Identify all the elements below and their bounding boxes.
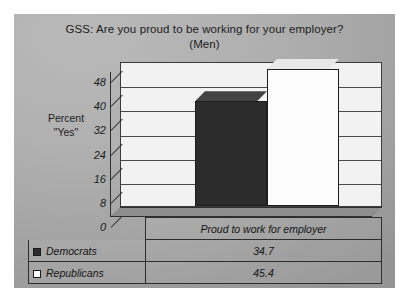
legend-swatch-democrats-icon bbox=[33, 248, 41, 256]
legend-data-table: Proud to work for employer Democrats 34.… bbox=[28, 217, 382, 284]
tick-connector-40 bbox=[111, 95, 122, 106]
tick-connector-24 bbox=[111, 144, 122, 155]
table-header-key-cell bbox=[29, 218, 146, 240]
legend-item-republicans[interactable]: Republicans bbox=[29, 262, 146, 284]
y-tick-label-32: 32 bbox=[94, 124, 106, 136]
chart-panel: GSS: Are you proud to be working for you… bbox=[14, 14, 395, 288]
value-democrats: 34.7 bbox=[146, 240, 382, 262]
legend-label-republicans: Republicans bbox=[46, 267, 104, 279]
bar-democrats bbox=[195, 101, 267, 206]
chart-title-line1: GSS: Are you proud to be working for you… bbox=[65, 23, 343, 35]
chart-title-line2: (Men) bbox=[14, 37, 395, 52]
screenshot-root: GSS: Are you proud to be working for you… bbox=[0, 0, 417, 299]
y-tick-label-8: 8 bbox=[100, 197, 106, 209]
tick-connector-48 bbox=[111, 71, 122, 82]
bar-republicans bbox=[267, 69, 339, 206]
y-tick-label-48: 48 bbox=[94, 76, 106, 88]
y-axis-label-line1: Percent bbox=[26, 111, 106, 125]
y-tick-label-24: 24 bbox=[94, 149, 106, 161]
legend-swatch-republicans-icon bbox=[33, 270, 41, 278]
y-axis-spine: 48 40 32 24 16 8 0 bbox=[110, 72, 111, 217]
value-republicans: 45.4 bbox=[146, 262, 382, 284]
y-tick-label-16: 16 bbox=[94, 173, 106, 185]
bar-republicans-top-face bbox=[267, 59, 339, 69]
table-row: Democrats 34.7 bbox=[29, 240, 382, 262]
table-row: Republicans 45.4 bbox=[29, 262, 382, 284]
plot-floor bbox=[110, 207, 382, 217]
y-tick-label-40: 40 bbox=[94, 100, 106, 112]
tick-connector-32 bbox=[111, 119, 122, 130]
plot-back-wall bbox=[120, 62, 382, 207]
chart-title: GSS: Are you proud to be working for you… bbox=[14, 22, 395, 52]
bar-republicans-front-face bbox=[267, 69, 339, 206]
plot-region: 48 40 32 24 16 8 0 bbox=[110, 62, 382, 217]
table-header-category: Proud to work for employer bbox=[146, 218, 382, 240]
tick-connector-8 bbox=[111, 192, 122, 203]
gridline-40 bbox=[121, 87, 381, 88]
table-header-row: Proud to work for employer bbox=[29, 218, 382, 240]
legend-label-democrats: Democrats bbox=[46, 245, 97, 257]
bar-democrats-top-face bbox=[195, 91, 267, 101]
legend-item-democrats[interactable]: Democrats bbox=[29, 240, 146, 262]
tick-connector-16 bbox=[111, 168, 122, 179]
bar-democrats-front-face bbox=[195, 101, 267, 206]
